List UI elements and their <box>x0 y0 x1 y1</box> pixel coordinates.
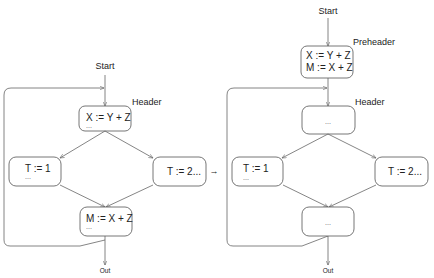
after-left-extra: ... <box>243 174 249 181</box>
before-right-code: T := 2... <box>167 166 201 177</box>
before-merge-extra: ... <box>86 223 92 230</box>
before-merge-code: M := X + Z <box>86 213 133 224</box>
before-edge-header-right <box>105 131 153 158</box>
after-edge-right-merge <box>329 185 376 207</box>
after-preheader-code-2: M := X + Z <box>306 62 353 73</box>
before-start-label: Start <box>95 61 115 71</box>
after-preheader-label: Preheader <box>353 37 395 47</box>
after-edge-left-merge <box>283 185 328 207</box>
before-edge-header-left <box>60 131 105 158</box>
before-right-node: T := 2... <box>153 157 206 186</box>
before-left-node: T := 1 ... <box>9 157 61 186</box>
after-header-label: Header <box>355 97 385 107</box>
before-out-label: Out <box>100 267 111 274</box>
after-left-node: T := 1 ... <box>232 157 283 186</box>
after-diagram: Start Preheader X := Y + Z M := X + Z He… <box>227 6 428 274</box>
before-merge-node: M := X + Z ... <box>80 207 133 236</box>
before-header-label: Header <box>132 97 162 107</box>
before-diagram: Start Header X := Y + Z ... T := 1 ... T… <box>4 61 206 274</box>
after-out-label: Out <box>323 267 334 274</box>
before-header-node: X := Y + Z ... <box>79 106 131 131</box>
loop-hoisting-diagram: Start Header X := Y + Z ... T := 1 ... T… <box>0 0 434 278</box>
after-edge-header-left <box>282 134 328 158</box>
after-right-node: T := 2... <box>375 157 428 186</box>
transition-arrow: → <box>210 166 219 176</box>
after-header-code: ... <box>325 118 331 125</box>
before-header-code: X := Y + Z <box>86 112 131 123</box>
before-header-extra: ... <box>86 122 92 129</box>
after-merge-code: ... <box>325 219 331 226</box>
after-edge-header-right <box>328 134 376 158</box>
before-edge-right-merge <box>106 185 153 207</box>
after-merge-node: ... <box>302 207 354 236</box>
before-left-extra: ... <box>25 173 31 180</box>
after-right-code: T := 2... <box>388 166 422 177</box>
before-edge-left-merge <box>60 185 105 207</box>
after-preheader-node: X := Y + Z M := X + Z <box>301 46 353 78</box>
after-start-label: Start <box>318 6 338 16</box>
after-header-node: ... <box>302 106 355 134</box>
after-preheader-code-1: X := Y + Z <box>306 50 351 61</box>
after-left-code: T := 1 <box>243 163 269 174</box>
